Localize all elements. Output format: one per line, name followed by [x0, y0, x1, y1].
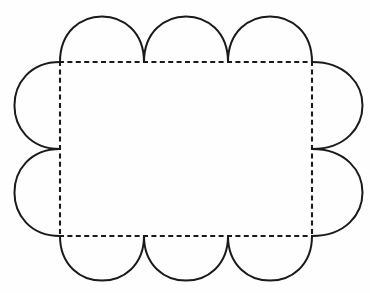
- scalloped-net-figure: Scalloped net of a cube-like solid A das…: [0, 0, 370, 293]
- scallop-top-arc-1: [60, 16, 144, 62]
- figure-canvas: Scalloped net of a cube-like solid A das…: [0, 0, 370, 293]
- scallop-top-arc-2: [144, 16, 228, 62]
- scallop-left-arc-2: [14, 149, 60, 236]
- scallop-bottom-arc-2: [144, 236, 228, 281]
- scallop-bottom-arc-1: [60, 236, 144, 281]
- scallop-outline-group: [14, 16, 362, 280]
- scallop-right-arc-2: [312, 149, 362, 236]
- scallop-bottom-arc-3: [228, 236, 312, 281]
- inner-dashed-rectangle-group: [59, 61, 313, 237]
- scallop-right-arc-1: [312, 62, 362, 149]
- scallop-left-arc-1: [14, 62, 60, 149]
- scallop-top-arc-3: [228, 16, 312, 62]
